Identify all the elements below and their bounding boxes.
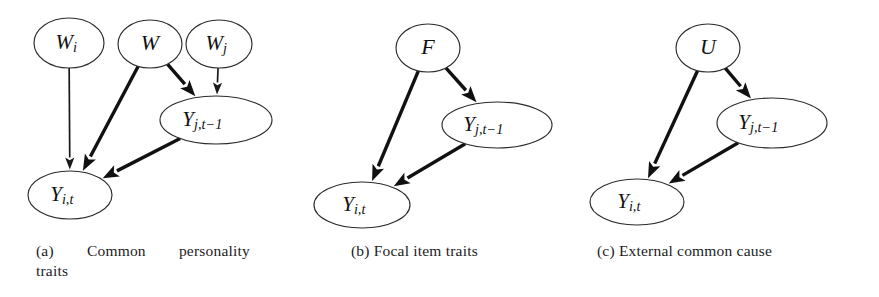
arrowhead [394,173,411,186]
edge-a-W-to-Yjt1 [167,64,195,96]
panel-caption-b: (b) Focal item traits [351,241,478,261]
edge-b-F-to-Yjt1 [446,68,477,102]
node-b-F[interactable]: F [396,24,460,72]
node-c-U[interactable]: U [676,24,740,72]
panel-caption-a: (a) Common personality traits [36,241,250,281]
node-a-Yit[interactable]: Yi,t [28,171,112,219]
node-a-Wj[interactable]: Wj [186,20,252,68]
node-label: F [420,34,435,59]
arrowhead [213,82,222,94]
node-a-Wi[interactable]: Wi [34,18,104,68]
edge-a-Wi-to-Yit [65,68,74,170]
edge-a-Wj-to-Yjt1 [213,68,222,95]
edge-c-Yjt1-to-Yit [669,143,739,184]
node-c-Yit[interactable]: Yi,t [590,179,684,225]
panel-tag-c: (c) [597,242,615,259]
arrowhead [669,170,686,183]
panel-b: FYj,t−1Yi,t [314,24,552,228]
node-label: U [700,34,718,59]
panel-tag-a: (a) [36,242,54,259]
edge-b-F-to-Yit [372,71,418,181]
arrowhead [103,165,120,178]
edge-c-U-to-Yjt1 [725,68,751,98]
panel-c: UYj,t−1Yi,t [590,24,827,225]
panel-caption-b-text: Focal item traits [374,242,478,259]
arrowhead [372,164,384,181]
node-a-W[interactable]: W [118,20,182,68]
node-b-Yit[interactable]: Yi,t [314,182,410,228]
panel-caption-c-text: External common cause [619,242,772,259]
figure-root: WiWWjYj,t−1Yi,tFYj,t−1Yi,tUYj,t−1Yi,t (a… [0,0,879,297]
panel-caption-c: (c) External common cause [597,241,772,261]
edge-b-Yjt1-to-Yit [394,144,466,186]
arrowhead [83,154,96,171]
node-b-Yjt1[interactable]: Yj,t−1 [442,102,552,148]
arrowhead [65,157,74,169]
node-c-Yjt1[interactable]: Yj,t−1 [717,98,827,148]
edge-a-W-to-Yit [83,66,138,170]
panel-tag-b: (b) [351,242,370,259]
panel-caption-a-line1: Common personality [87,242,250,259]
arrowhead [648,161,660,178]
edge-c-U-to-Yit [648,71,698,178]
node-a-Yjt1[interactable]: Yj,t−1 [160,96,272,144]
edge-a-Yjt1-to-Yit [103,138,180,178]
panel-a: WiWWjYj,t−1Yi,t [28,18,272,219]
node-label: W [141,30,161,55]
panel-caption-a-line2: traits [36,261,250,281]
